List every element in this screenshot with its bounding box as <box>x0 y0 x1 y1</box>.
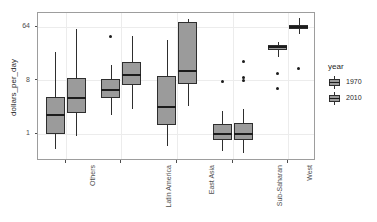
legend-item[interactable]: 1970 <box>328 75 377 89</box>
boxplot-median <box>289 26 308 28</box>
legend-key-icon <box>328 92 341 105</box>
x-tick-label: Latin America <box>166 165 173 207</box>
legend: year 19702010 <box>328 62 377 107</box>
boxplot-median <box>46 114 65 116</box>
boxplot-outlier <box>221 80 224 83</box>
boxplot-median <box>268 46 287 48</box>
boxplot-box <box>178 22 197 84</box>
y-tick-label: 1 <box>0 129 30 136</box>
legend-label: 2010 <box>346 94 362 102</box>
boxplot-outlier <box>242 79 245 82</box>
whisker-upper <box>299 18 300 25</box>
legend-entries: 19702010 <box>328 75 377 105</box>
whisker-upper <box>111 65 112 79</box>
whisker-lower <box>167 125 168 146</box>
x-tick-mark <box>176 160 177 163</box>
grid-line-horizontal <box>38 134 314 135</box>
x-tick-mark <box>120 160 121 163</box>
y-tick-label: 64 <box>0 22 30 29</box>
whisker-upper <box>167 40 168 75</box>
x-tick-mark <box>65 160 66 163</box>
whisker-upper <box>55 52 56 97</box>
boxplot-outlier <box>276 87 279 90</box>
y-tick-label: 8 <box>0 76 30 83</box>
legend-key-icon <box>328 76 341 89</box>
boxplot-median <box>101 89 120 91</box>
boxplot-outlier <box>297 67 300 70</box>
boxplot-median <box>67 97 86 99</box>
grid-line-vertical <box>121 13 122 159</box>
whisker-lower <box>222 140 223 151</box>
x-tick-label: Sub-Saharan <box>276 165 283 206</box>
boxplot-box <box>67 78 86 113</box>
whisker-lower <box>132 85 133 109</box>
whisker-lower <box>278 50 279 57</box>
boxplot-outlier <box>242 60 245 63</box>
legend-label: 1970 <box>346 78 362 86</box>
x-tick-label: East Asia <box>208 165 215 194</box>
legend-title: year <box>328 62 377 71</box>
x-tick-label: West <box>306 165 313 181</box>
whisker-lower <box>299 29 300 34</box>
whisker-upper <box>76 29 77 78</box>
boxplot-box <box>157 76 176 126</box>
whisker-upper <box>132 36 133 62</box>
whisker-lower <box>76 113 77 137</box>
y-axis-title: dollars_per_day <box>10 59 18 116</box>
whisker-lower <box>243 140 244 153</box>
legend-item[interactable]: 2010 <box>328 91 377 105</box>
x-tick-label: Others <box>89 165 96 186</box>
x-tick-mark <box>287 160 288 163</box>
boxplot-chart: dollars_per_day 1864 OthersLatin America… <box>0 0 377 222</box>
plot-panel <box>37 12 315 160</box>
whisker-upper <box>243 109 244 122</box>
boxplot-median <box>234 133 253 135</box>
whisker-lower <box>188 84 189 106</box>
boxplot-median <box>213 133 232 135</box>
boxplot-median <box>122 74 141 76</box>
whisker-lower <box>111 98 112 115</box>
whisker-upper <box>222 111 223 124</box>
grid-line-horizontal <box>38 27 314 28</box>
x-tick-mark <box>232 160 233 163</box>
grid-line-vertical <box>288 13 289 159</box>
whisker-lower <box>55 134 56 149</box>
boxplot-box <box>234 123 253 140</box>
boxplot-median <box>178 70 197 72</box>
boxplot-outlier <box>276 72 279 75</box>
boxplot-outlier <box>109 35 112 38</box>
boxplot-median <box>157 106 176 108</box>
